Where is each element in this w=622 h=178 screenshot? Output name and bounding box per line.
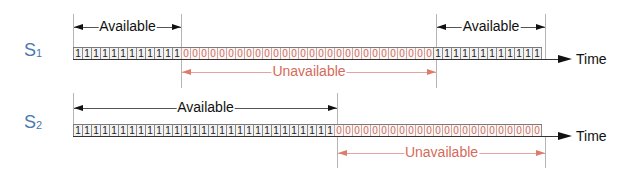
bit-cell: 0 [370, 48, 379, 59]
bit-cell: 1 [163, 125, 172, 136]
bit-cell: 1 [460, 48, 469, 59]
bit-cell: 0 [280, 48, 289, 59]
bit-cell: 0 [208, 48, 217, 59]
bit-cell: 1 [145, 48, 154, 59]
span-label: Available [98, 18, 157, 34]
arrow-right-icon [328, 105, 337, 111]
bit-cell: 0 [343, 125, 352, 136]
bit-cell: 1 [307, 125, 316, 136]
bit-cell: 1 [109, 125, 118, 136]
bit-cell: 1 [532, 48, 542, 59]
bit-cell: 0 [271, 48, 280, 59]
bit-cell: 0 [379, 125, 388, 136]
time-axis-label: Time [576, 51, 607, 67]
bit-cell: 0 [397, 125, 406, 136]
bit-cell: 0 [199, 48, 208, 59]
signal-label-s2: S2 [24, 112, 42, 133]
bit-cell: 1 [154, 48, 163, 59]
bit-cell: 0 [469, 125, 478, 136]
bit-cell: 0 [352, 48, 361, 59]
bit-cell: 0 [442, 125, 451, 136]
bit-cell: 1 [82, 48, 91, 59]
bit-cell: 1 [253, 125, 262, 136]
bit-cell: 1 [226, 125, 235, 136]
bit-cell: 1 [514, 48, 523, 59]
bit-cell: 1 [181, 125, 190, 136]
bit-cell: 1 [244, 125, 253, 136]
bit-cell: 0 [460, 125, 469, 136]
bit-cell: 0 [217, 48, 226, 59]
bit-cell: 0 [334, 125, 343, 136]
bit-cell: 1 [505, 48, 514, 59]
arrow-right-icon [558, 132, 572, 140]
bit-cell: 1 [433, 48, 442, 59]
bit-cell: 1 [136, 48, 145, 59]
bit-cell: 1 [91, 125, 100, 136]
bit-cell: 1 [82, 125, 91, 136]
arrow-left-icon [182, 69, 191, 75]
bit-cell: 1 [163, 48, 172, 59]
bit-cell: 1 [523, 48, 532, 59]
arrow-left-icon [74, 105, 83, 111]
bit-cell: 1 [145, 125, 154, 136]
signal-subscript: 1 [36, 47, 42, 59]
bit-cell: 0 [235, 48, 244, 59]
arrow-right-icon [536, 150, 545, 156]
bit-cell: 0 [397, 48, 406, 59]
bit-cell: 1 [217, 125, 226, 136]
bit-cell: 0 [361, 48, 370, 59]
bit-cell: 1 [118, 48, 127, 59]
bit-cell: 1 [100, 125, 109, 136]
signal-name: S [24, 40, 36, 60]
bit-cell: 0 [352, 125, 361, 136]
signal-label-s1: S1 [24, 40, 42, 61]
span-unavailable-s2: Unavailable [338, 153, 545, 154]
bit-cell: 0 [181, 48, 190, 59]
bit-cell: 1 [469, 48, 478, 59]
bit-cell: 0 [307, 48, 316, 59]
bit-cell: 1 [487, 48, 496, 59]
span-available-s2: Available [74, 108, 337, 109]
bit-cell: 1 [235, 125, 244, 136]
bit-cell: 1 [91, 48, 100, 59]
bit-cell: 0 [334, 48, 343, 59]
bit-cell: 1 [442, 48, 451, 59]
bit-cell: 0 [244, 48, 253, 59]
bit-cell: 1 [73, 125, 82, 136]
bit-cell: 0 [424, 48, 433, 59]
bit-cell: 1 [172, 48, 181, 59]
guide-line [545, 14, 546, 60]
bit-cell: 0 [406, 48, 415, 59]
time-axis-s2 [73, 136, 563, 137]
signal-name: S [24, 112, 36, 132]
bit-cell: 0 [388, 48, 397, 59]
bit-cell: 1 [208, 125, 217, 136]
bit-cell: 1 [289, 125, 298, 136]
bit-cell: 1 [118, 125, 127, 136]
span-unavailable-s1: Unavailable [182, 72, 436, 73]
span-available-s1-b: Available [437, 27, 545, 28]
span-label: Unavailable [404, 144, 479, 160]
signal-subscript: 2 [36, 119, 42, 131]
bit-cell: 0 [325, 48, 334, 59]
arrow-right-icon [536, 24, 545, 30]
bit-cell: 0 [451, 125, 460, 136]
bit-cell: 1 [451, 48, 460, 59]
bit-cell: 0 [361, 125, 370, 136]
bit-cell: 1 [100, 48, 109, 59]
bit-cell: 1 [280, 125, 289, 136]
bit-cell: 1 [136, 125, 145, 136]
bit-cell: 1 [262, 125, 271, 136]
bit-cell: 1 [325, 125, 334, 136]
bit-cell: 0 [433, 125, 442, 136]
bit-cell: 0 [514, 125, 523, 136]
bit-cell: 0 [487, 125, 496, 136]
bit-cell: 1 [271, 125, 280, 136]
bit-cell: 1 [478, 48, 487, 59]
arrow-right-icon [558, 55, 572, 63]
guide-line [545, 136, 546, 168]
bit-cell: 0 [190, 48, 199, 59]
time-axis-label: Time [576, 128, 607, 144]
arrow-left-icon [74, 24, 83, 30]
bit-cell: 0 [262, 48, 271, 59]
